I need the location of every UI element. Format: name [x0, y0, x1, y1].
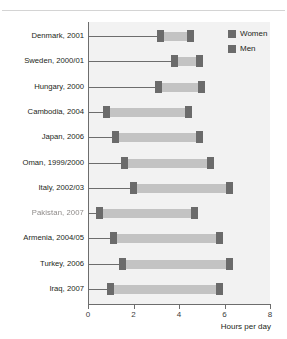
marker-women — [185, 106, 192, 118]
row-range-bar — [119, 260, 233, 269]
x-tick-label-6: 6 — [222, 310, 226, 319]
row-leader-line — [88, 36, 157, 37]
row-leader-line — [88, 213, 96, 214]
marker-women — [196, 55, 203, 67]
title-divider — [2, 10, 285, 11]
chart-title-clip: selected countries — [0, 0, 287, 5]
row-label: Iraq, 2007 — [49, 284, 84, 293]
marker-men — [155, 81, 162, 93]
row-range-bar — [112, 133, 203, 142]
row-range-bar — [96, 209, 199, 218]
x-tick-label-0: 0 — [86, 310, 90, 319]
x-tick-2 — [134, 305, 135, 309]
row-label: Italy, 2002/03 — [38, 183, 84, 192]
row-leader-line — [88, 87, 155, 88]
marker-women — [198, 81, 205, 93]
row-label: Armenia, 2004/05 — [23, 233, 84, 242]
chart-figure: selected countries 02468 Hours per day D… — [0, 0, 287, 339]
marker-women — [226, 182, 233, 194]
chart-row: Turkey, 2006 — [0, 258, 287, 270]
row-range-bar — [103, 108, 192, 117]
legend-swatch-women-icon — [228, 30, 236, 38]
marker-men — [121, 157, 128, 169]
row-leader-line — [88, 264, 119, 265]
x-axis-title: Hours per day — [221, 322, 271, 331]
row-label: Hungary, 2000 — [34, 82, 84, 91]
row-label: Sweden, 2000/01 — [24, 56, 84, 65]
marker-women — [187, 30, 194, 42]
marker-men — [171, 55, 178, 67]
row-leader-line — [88, 238, 110, 239]
x-tick-8 — [270, 305, 271, 309]
row-range-bar — [107, 285, 223, 294]
row-range-bar — [130, 184, 233, 193]
row-label: Denmark, 2001 — [31, 31, 84, 40]
chart-row: Sweden, 2000/01 — [0, 55, 287, 67]
row-label: Oman, 1999/2000 — [22, 158, 84, 167]
chart-row: Iraq, 2007 — [0, 283, 287, 295]
row-range-bar — [121, 159, 214, 168]
chart-row: Italy, 2002/03 — [0, 182, 287, 194]
row-label: Japan, 2006 — [42, 132, 84, 141]
marker-men — [112, 131, 119, 143]
x-tick-label-8: 8 — [268, 310, 272, 319]
x-tick-4 — [179, 305, 180, 309]
chart-row: Armenia, 2004/05 — [0, 232, 287, 244]
x-tick-0 — [88, 305, 89, 309]
row-leader-line — [88, 137, 112, 138]
chart-row: Oman, 1999/2000 — [0, 157, 287, 169]
marker-women — [191, 207, 198, 219]
marker-men — [119, 258, 126, 270]
chart-legend: Women Men — [228, 27, 267, 57]
marker-men — [130, 182, 137, 194]
row-leader-line — [88, 112, 103, 113]
chart-row: Pakistan, 2007 — [0, 207, 287, 219]
row-leader-line — [88, 188, 130, 189]
chart-row: Cambodia, 2004 — [0, 106, 287, 118]
x-tick-label-2: 2 — [131, 310, 135, 319]
x-tick-label-4: 4 — [177, 310, 181, 319]
marker-women — [226, 258, 233, 270]
chart-row: Japan, 2006 — [0, 131, 287, 143]
chart-row: Hungary, 2000 — [0, 81, 287, 93]
marker-women — [216, 232, 223, 244]
row-leader-line — [88, 163, 121, 164]
legend-swatch-men-icon — [228, 45, 236, 53]
x-tick-6 — [225, 305, 226, 309]
marker-women — [216, 283, 223, 295]
marker-women — [207, 157, 214, 169]
row-label: Turkey, 2006 — [40, 259, 84, 268]
marker-men — [103, 106, 110, 118]
row-leader-line — [88, 61, 171, 62]
marker-men — [157, 30, 164, 42]
marker-men — [96, 207, 103, 219]
row-label: Pakistan, 2007 — [32, 208, 84, 217]
legend-item-women: Women — [228, 27, 267, 40]
page-title: selected countries — [0, 0, 287, 3]
legend-label-women: Women — [240, 29, 267, 38]
legend-label-men: Men — [240, 44, 256, 53]
row-leader-line — [88, 289, 107, 290]
marker-women — [196, 131, 203, 143]
row-label: Cambodia, 2004 — [28, 107, 84, 116]
marker-men — [107, 283, 114, 295]
row-range-bar — [110, 234, 224, 243]
marker-men — [110, 232, 117, 244]
legend-item-men: Men — [228, 42, 267, 55]
